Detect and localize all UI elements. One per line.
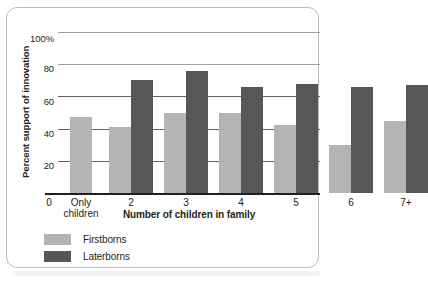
bar-firstborns-3[interactable]	[164, 113, 186, 194]
bar-firstborns-5[interactable]	[274, 125, 296, 193]
bar-firstborns-only-children[interactable]	[70, 117, 92, 193]
x-tick-4: 4	[238, 197, 244, 208]
y-tick-20: 20	[44, 160, 54, 171]
figure-shadow	[11, 271, 321, 276]
bar-laterborns-3[interactable]	[186, 71, 208, 193]
x-tick-zero: 0	[46, 197, 52, 208]
x-tick-5: 5	[293, 197, 299, 208]
bar-laterborns-2[interactable]	[131, 80, 153, 193]
y-tick-40: 40	[44, 128, 54, 139]
plot-area: 100% 80 60 40 20	[58, 32, 320, 193]
legend-swatch-laterborns	[44, 251, 71, 262]
x-tick-6: 6	[348, 197, 354, 208]
bar-group-5-firstborn	[274, 32, 296, 193]
legend-item-laterborns[interactable]: Laterborns	[44, 248, 130, 265]
bar-group-7plus-firstborn	[384, 32, 406, 193]
y-tick-60: 60	[44, 96, 54, 107]
y-axis-title: Percent support of innovation	[18, 36, 32, 188]
bar-group-7plus-laterborn	[406, 32, 428, 193]
x-axis-line	[45, 193, 320, 195]
bar-laterborns-6[interactable]	[351, 87, 373, 193]
x-tick-3: 3	[183, 197, 189, 208]
bar-laterborns-7plus[interactable]	[406, 85, 428, 193]
bar-firstborns-2[interactable]	[109, 127, 131, 193]
bar-group-6-firstborn	[329, 32, 351, 193]
y-tick-80: 80	[44, 63, 54, 74]
legend-label-firstborns: Firstborns	[83, 234, 126, 245]
y-tick-100: 100%	[30, 33, 54, 44]
x-tick-2: 2	[128, 197, 134, 208]
x-tick-7plus: 7+	[400, 197, 411, 208]
bar-firstborns-7plus[interactable]	[384, 121, 406, 194]
legend-item-firstborns[interactable]: Firstborns	[44, 231, 130, 248]
x-axis-title: Number of children in family	[58, 209, 320, 220]
legend-label-laterborns: Laterborns	[83, 251, 130, 262]
legend: Firstborns Laterborns	[44, 231, 130, 265]
bar-group-2-firstborn	[109, 32, 131, 193]
bar-firstborns-6[interactable]	[329, 145, 351, 193]
bar-group-only-children	[70, 32, 92, 193]
bar-group-3-firstborn	[164, 32, 186, 193]
bar-group-2-laterborn	[131, 32, 153, 193]
legend-swatch-firstborns	[44, 234, 71, 245]
bar-firstborns-4[interactable]	[219, 113, 241, 194]
bar-laterborns-5[interactable]	[296, 84, 318, 194]
bar-group-6-laterborn	[351, 32, 373, 193]
x-tick-only-children-line1: Only	[71, 197, 92, 208]
bar-group-4-laterborn	[241, 32, 263, 193]
bar-laterborns-4[interactable]	[241, 87, 263, 193]
figure-frame: Percent support of innovation 100% 80 60…	[6, 7, 319, 268]
bar-group-4-firstborn	[219, 32, 241, 193]
bar-group-5-laterborn	[296, 32, 318, 193]
bar-group-3-laterborn	[186, 32, 208, 193]
